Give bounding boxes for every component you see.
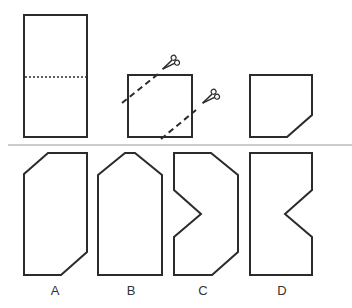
scissors-icon xyxy=(199,88,220,107)
option-d[interactable]: D xyxy=(250,153,312,298)
option-label-a: A xyxy=(51,283,60,298)
puzzle-figure: A B C D xyxy=(0,0,352,308)
option-a[interactable]: A xyxy=(24,153,87,298)
option-c[interactable]: C xyxy=(174,153,238,298)
step1-rectangle xyxy=(24,15,87,137)
option-label-d: D xyxy=(277,283,286,298)
step2-folded-square xyxy=(122,54,221,139)
step3-result-shape xyxy=(250,75,312,137)
option-b[interactable]: B xyxy=(98,153,162,298)
scissors-icon xyxy=(159,54,180,73)
option-label-b: B xyxy=(127,283,136,298)
cut-line-bottom xyxy=(161,110,196,139)
option-label-c: C xyxy=(198,283,207,298)
